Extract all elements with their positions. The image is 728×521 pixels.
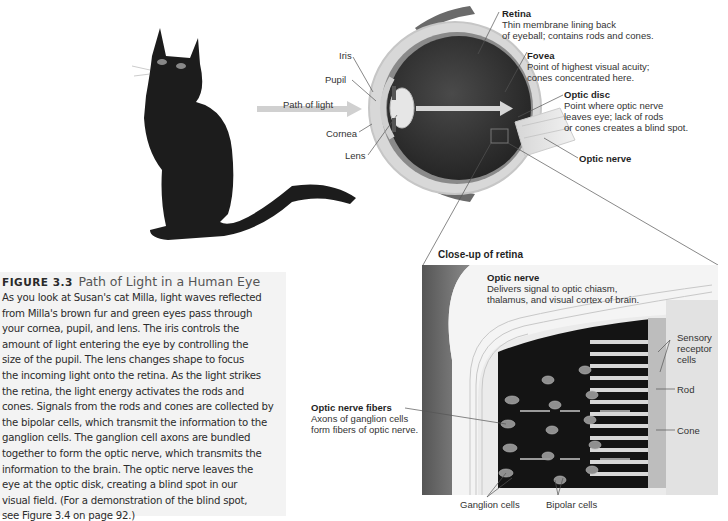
figure-title: Path of Light in a Human Eye [78,274,260,289]
closeup-label-rod: Rod [677,384,694,395]
figure-number: FIGURE 3.3 [2,276,73,288]
cat-photo [132,28,356,240]
label-pupil: Pupil [325,74,346,85]
closeup-title: Close-up of retina [438,249,523,260]
figure-caption: FIGURE 3.3 Path of Light in a Human Eye … [0,272,286,516]
closeup-label-bipolar: Bipolar cells [546,499,597,510]
label-cornea: Cornea [326,128,357,139]
closeup-label-optic-nerve-fibers: Optic nerve fibers Axons of ganglion cel… [311,402,418,435]
closeup-label-cone: Cone [677,425,700,436]
closeup-label-sensory-receptor: Sensory receptor cells [677,332,712,365]
closeup-label-ganglion: Ganglion cells [460,499,520,510]
label-lens: Lens [345,150,366,161]
caption-heading: FIGURE 3.3 Path of Light in a Human Eye [2,274,284,290]
label-path-of-light: Path of light [283,99,333,110]
closeup-label-optic-nerve: Optic nerve Delivers signal to optic chi… [487,272,639,305]
label-optic-nerve: Optic nerve [579,153,631,164]
label-fovea: Fovea Point of highest visual acuity; co… [527,50,650,83]
label-optic-disc-title: Optic disc [564,89,688,100]
label-optic-disc: Optic disc Point where optic nerve leave… [564,89,688,133]
label-fovea-title: Fovea [527,50,650,61]
label-retina: Retina Thin membrane lining back of eyeb… [502,8,654,41]
label-retina-title: Retina [502,8,654,19]
caption-body: As you look at Susan's cat Milla, light … [2,290,284,521]
label-iris: Iris [339,50,352,61]
